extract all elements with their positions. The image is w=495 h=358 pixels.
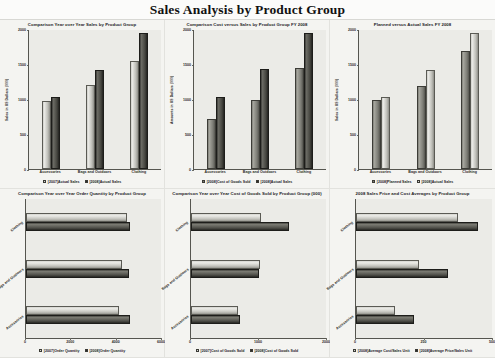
bar[interactable] [130,61,139,169]
plot-canvas [358,30,492,170]
chart-panel-yoy-sales[interactable]: Comparison Year over Year Sales by Produ… [0,20,165,189]
chart-legend[interactable]: [2008]Cost of Goods Sold[2008]Actual Sal… [168,177,326,186]
x-category-label: Clothing [132,170,147,174]
plot-area: AccessoriesBags and OutdoorsClothing [333,199,492,339]
bar[interactable] [381,97,390,169]
bar[interactable] [356,260,419,269]
y-tick-label: 0 [189,168,191,172]
bar-group [356,213,492,231]
y-tick-label: 1500 [348,63,356,67]
x-category-label: Clothing [297,170,312,174]
chart-title: Comparison Cost versus Sales by Product … [168,22,326,30]
bar[interactable] [26,306,119,315]
chart-legend[interactable]: [2007]Cost of Goods Sold[2008]Cost of Go… [168,346,326,355]
bar[interactable] [356,213,458,222]
chart-legend[interactable]: [2008]Average Cost/Sales Unit[2008]Avera… [333,346,492,355]
bar[interactable] [295,68,304,169]
bar-group [191,306,326,324]
y-tick-label: 500 [20,133,26,137]
chart-panel-cost-vs-sales[interactable]: Comparison Cost versus Sales by Product … [165,20,330,189]
bar[interactable] [356,269,448,278]
bar[interactable] [356,306,395,315]
plot-area: Amounts in US Dollars (000) 050010001500… [168,30,326,170]
legend-item[interactable]: [2007]Actual Sales [43,180,80,184]
bar[interactable] [42,101,51,169]
bar[interactable] [372,100,381,169]
bar-group [86,30,104,169]
bar[interactable] [26,222,130,231]
chart-legend[interactable]: [2007]Order Quantity[2008]Order Quantity [3,346,161,355]
bar[interactable] [26,260,122,269]
legend-item[interactable]: [2007]Order Quantity [39,349,80,353]
bar[interactable] [191,260,260,269]
bar[interactable] [356,315,414,324]
bar[interactable] [417,86,426,169]
bar[interactable] [95,70,104,169]
bar[interactable] [191,222,289,231]
legend-label: [2007]Actual Sales [48,180,80,184]
y-axis-label: Amounts in US Dollars (000) [168,30,175,170]
legend-item[interactable]: [2007]Cost of Goods Sold [196,349,245,353]
bar[interactable] [139,33,148,169]
legend-item[interactable]: [2008]Cost of Goods Sold [202,180,251,184]
legend-item[interactable]: [2008]Actual Sales [85,180,122,184]
bar[interactable] [251,100,260,169]
bar[interactable] [51,97,60,169]
bar[interactable] [304,33,313,169]
bar[interactable] [461,51,470,169]
chart-panel-order-quantity[interactable]: Comparison Year over Year Order Quantity… [0,189,165,358]
legend-label: [2008]Actual Sales [260,180,292,184]
legend-item[interactable]: [2008]Order Quantity [85,349,126,353]
y-category-label: Accessories [335,314,354,330]
chart-title: 2008 Sales Price and Cost Averages by Pr… [333,191,492,199]
legend-swatch-icon [43,180,46,183]
bar-group [372,30,390,169]
chart-panel-cogs[interactable]: Comparison Year over Year Cost of Goods … [165,189,330,358]
chart-panel-price-cost-averages[interactable]: 2008 Sales Price and Cost Averages by Pr… [330,189,495,358]
bar[interactable] [426,70,435,169]
legend-swatch-icon [250,349,253,352]
bar[interactable] [260,69,269,169]
bar[interactable] [470,33,479,169]
legend-item[interactable]: [2008]Actual Sales [417,180,454,184]
legend-swatch-icon [417,180,420,183]
legend-item[interactable]: [2008]Actual Sales [256,180,293,184]
x-axis-categories: AccessoriesBags and OutdoorsClothing [358,170,492,177]
bar[interactable] [26,315,130,324]
bar[interactable] [207,119,216,169]
legend-label: [2008]Actual Sales [89,180,121,184]
y-axis-categories: AccessoriesBags and OutdoorsClothing [3,199,25,339]
y-tick-label: 2000 [183,28,191,32]
y-tick-label: 500 [185,133,191,137]
bar[interactable] [191,213,261,222]
bar[interactable] [216,97,225,169]
x-category-label: Accessories [205,170,226,174]
bar[interactable] [26,213,127,222]
bar[interactable] [356,222,478,231]
legend-item[interactable]: [2008]Average Price/Sales Unit [415,349,473,353]
legend-item[interactable]: [2008]Average Cost/Sales Unit [353,349,410,353]
chart-legend[interactable]: [2008]Planned Sales[2008]Actual Sales [333,177,492,186]
x-axis-categories: AccessoriesBags and OutdoorsClothing [28,170,161,177]
chart-legend[interactable]: [2007]Actual Sales[2008]Actual Sales [3,177,161,186]
plot-area: Sales in US Dollars (000) 05001000150020… [333,30,492,170]
dashboard-page: Sales Analysis by Product Group Comparis… [0,0,495,358]
x-category-label: Bags and Outdoors [78,170,111,174]
y-category-label: Accessories [170,314,189,330]
plot-canvas [28,30,161,170]
legend-swatch-icon [415,349,418,352]
legend-item[interactable]: [2008]Cost of Goods Sold [250,349,299,353]
bar[interactable] [191,315,240,324]
legend-label: [2008]Average Cost/Sales Unit [358,349,410,353]
bar[interactable] [191,306,238,315]
page-title: Sales Analysis by Product Group [150,2,346,18]
plot-area: AccessoriesBags and OutdoorsClothing [168,199,326,339]
legend-item[interactable]: [2008]Planned Sales [372,180,412,184]
plot-canvas [25,199,161,339]
y-tick-label: 1000 [348,98,356,102]
bar[interactable] [86,85,95,169]
bar[interactable] [26,269,129,278]
bar[interactable] [191,269,259,278]
chart-panel-planned-vs-actual[interactable]: Planned versus Actual Sales FY 2008 Sale… [330,20,495,189]
x-tick-label: 500 [489,340,495,344]
